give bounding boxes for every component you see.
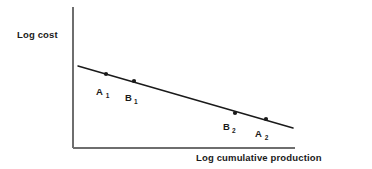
data-point-marker xyxy=(104,72,108,76)
data-point-marker xyxy=(233,111,237,115)
data-point-marker xyxy=(264,117,268,121)
chart-figure: Log cost Log cumulative production A1B1B… xyxy=(0,0,372,169)
chart-background xyxy=(0,0,372,169)
x-axis-label: Log cumulative production xyxy=(196,152,322,163)
y-axis-label: Log cost xyxy=(17,29,58,40)
data-point-label-subscript: 1 xyxy=(106,92,110,99)
experience-curve-chart: Log cost Log cumulative production A1B1B… xyxy=(0,0,372,169)
data-point-label-subscript: 2 xyxy=(265,134,269,141)
data-point-label-subscript: 2 xyxy=(232,127,236,134)
data-point-marker xyxy=(132,79,136,83)
data-point-label-subscript: 1 xyxy=(134,98,138,105)
